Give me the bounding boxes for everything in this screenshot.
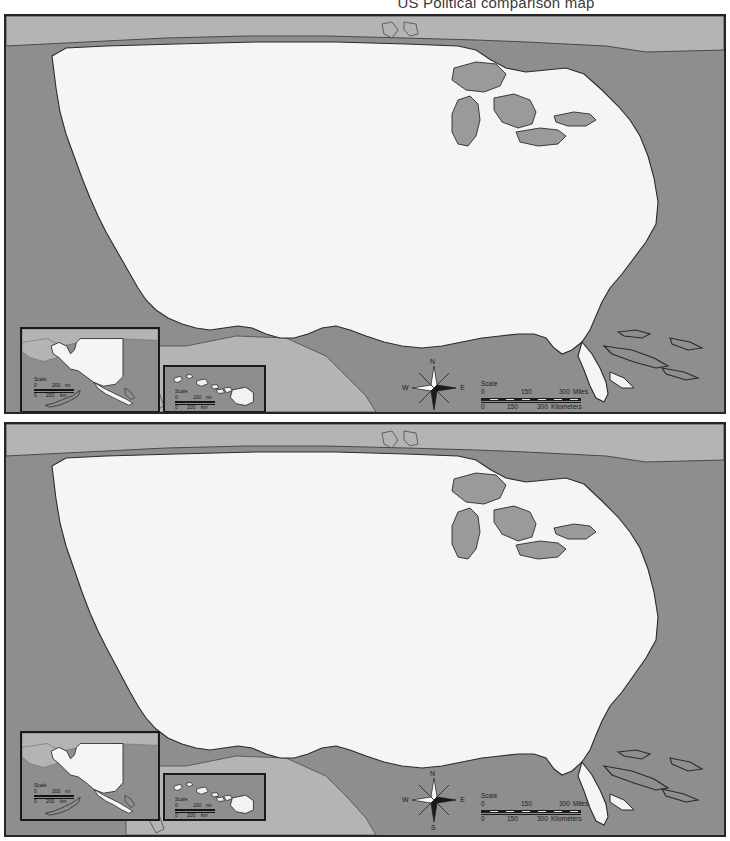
hawaii-scale-row-km: 0 100 km [175, 813, 223, 819]
hawaii-scale-row-km: 0 100 km [175, 405, 223, 411]
alaska-unit-km: km [60, 799, 67, 805]
scale-bar-title: Scale [481, 793, 585, 800]
compass-rose-icon [405, 771, 463, 829]
hawaii-tick-mi-0: 0 [175, 803, 178, 809]
hawaii-unit-mi: mi [206, 803, 211, 809]
hawaii-tick-mi-0: 0 [175, 395, 178, 401]
scale-tick-miles-2: 300 [559, 389, 570, 396]
compass-label-south: S [431, 412, 436, 414]
scale-bar-graphic [481, 810, 581, 813]
alaska-tick-km-0: 0 [34, 799, 37, 805]
hawaii-tick-km-0: 0 [175, 813, 178, 819]
compass-label-south: S [431, 824, 436, 831]
page-title: US Political comparison map [397, 0, 594, 11]
alaska-tick-km-1: 200 [46, 799, 54, 805]
alaska-unit-km: km [60, 393, 67, 399]
scale-tick-km-1: 150 [507, 816, 518, 823]
scale-row-miles: 0 150 300 Miles [481, 801, 581, 809]
hawaii-unit-km: km [201, 813, 208, 819]
alaska-inset[interactable]: Scale 0 200 mi 0 200 km [20, 731, 160, 821]
scale-tick-miles-0: 0 [481, 389, 485, 396]
scale-tick-miles-2: 300 [559, 801, 570, 808]
scale-tick-km-2: 300 [537, 816, 548, 823]
alaska-tick-mi-1: 200 [52, 383, 60, 389]
scale-tick-miles-0: 0 [481, 801, 485, 808]
hawaii-tick-km-1: 100 [187, 405, 195, 411]
compass-rose-icon [405, 359, 463, 414]
alaska-tick-mi-0: 0 [34, 789, 37, 795]
hawaii-scale-row-miles: 0 100 mi [175, 803, 223, 809]
upper-us-political-map[interactable]: N E S W Scale 0 150 300 Miles 0 150 300 … [4, 14, 726, 414]
alaska-inset[interactable]: Scale 0 200 mi 0 200 km [20, 327, 160, 413]
scale-tick-km-0: 0 [481, 816, 485, 823]
hawaii-inset[interactable]: Scale 0 100 mi 0 100 km [163, 773, 266, 821]
alaska-tick-mi-1: 200 [52, 789, 60, 795]
scale-unit-miles: Miles [573, 389, 588, 396]
alaska-unit-mi: mi [65, 383, 70, 389]
hawaii-unit-mi: mi [206, 395, 211, 401]
scale-unit-km: Kilometers [551, 816, 582, 823]
scale-row-kilometers: 0 150 300 Kilometers [481, 816, 581, 824]
alaska-scale-row-km: 0 200 km [34, 393, 82, 399]
compass-rose: N E S W [405, 771, 463, 829]
alaska-scale-row-km: 0 200 km [34, 799, 82, 805]
hawaii-inset-scale: Scale 0 100 mi 0 100 km [175, 389, 227, 411]
alaska-inset-scale: Scale 0 200 mi 0 200 km [34, 783, 86, 805]
alaska-tick-km-1: 200 [46, 393, 54, 399]
scale-unit-km: Kilometers [551, 404, 582, 411]
scale-tick-miles-1: 150 [521, 389, 532, 396]
scale-row-kilometers: 0 150 300 Kilometers [481, 404, 581, 412]
compass-label-north: N [430, 358, 435, 365]
alaska-inset-graphic [22, 733, 158, 819]
scale-tick-km-0: 0 [481, 404, 485, 411]
page-title-bar: US Political comparison map [0, 0, 730, 14]
alaska-tick-mi-0: 0 [34, 383, 37, 389]
scale-unit-miles: Miles [573, 801, 588, 808]
page-root: US Political comparison map [0, 0, 730, 841]
scale-tick-miles-1: 150 [521, 801, 532, 808]
compass-rose: N E S W [405, 359, 463, 414]
scale-bar-title: Scale [481, 381, 585, 388]
hawaii-tick-km-1: 100 [187, 813, 195, 819]
alaska-tick-km-0: 0 [34, 393, 37, 399]
compass-label-west: W [402, 384, 409, 391]
alaska-scale-row-miles: 0 200 mi [34, 789, 82, 795]
hawaii-tick-mi-1: 100 [193, 395, 201, 401]
hawaii-inset[interactable]: Scale 0 100 mi 0 100 km [163, 365, 266, 413]
scale-tick-km-2: 300 [537, 404, 548, 411]
compass-label-west: W [402, 796, 409, 803]
lower-us-political-map[interactable]: N E S W Scale 0 150 300 Miles 0 150 300 … [4, 422, 726, 837]
hawaii-inset-scale: Scale 0 100 mi 0 100 km [175, 797, 227, 819]
compass-label-east: E [460, 384, 465, 391]
alaska-inset-scale: Scale 0 200 mi 0 200 km [34, 377, 86, 399]
hawaii-tick-mi-1: 100 [193, 803, 201, 809]
scale-bar-graphic [481, 398, 581, 401]
alaska-scale-row-miles: 0 200 mi [34, 383, 82, 389]
scale-tick-km-1: 150 [507, 404, 518, 411]
scale-row-miles: 0 150 300 Miles [481, 389, 581, 397]
hawaii-scale-row-miles: 0 100 mi [175, 395, 223, 401]
map-scale-bar: Scale 0 150 300 Miles 0 150 300 Kilomete… [481, 381, 585, 412]
map-scale-bar: Scale 0 150 300 Miles 0 150 300 Kilomete… [481, 793, 585, 824]
hawaii-unit-km: km [201, 405, 208, 411]
compass-label-east: E [460, 796, 465, 803]
compass-label-north: N [430, 770, 435, 777]
alaska-unit-mi: mi [65, 789, 70, 795]
hawaii-tick-km-0: 0 [175, 405, 178, 411]
